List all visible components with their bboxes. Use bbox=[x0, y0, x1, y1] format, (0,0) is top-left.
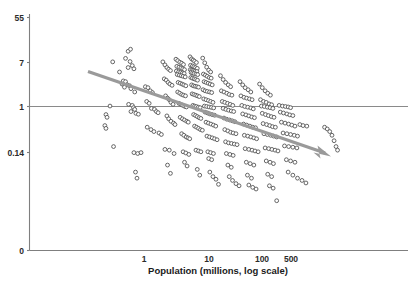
data-point bbox=[336, 148, 340, 152]
data-point bbox=[152, 130, 156, 134]
data-point bbox=[291, 114, 295, 118]
data-point bbox=[247, 183, 251, 187]
data-point bbox=[132, 67, 136, 71]
data-point bbox=[197, 85, 201, 89]
data-point bbox=[304, 181, 308, 185]
data-point bbox=[285, 132, 289, 136]
data-points-layer bbox=[103, 47, 339, 202]
data-point bbox=[275, 199, 279, 203]
data-point bbox=[184, 94, 188, 98]
data-point bbox=[208, 170, 212, 174]
x-tick-label-10: 10 bbox=[204, 254, 214, 264]
data-point bbox=[219, 74, 223, 78]
data-point bbox=[212, 106, 216, 110]
data-point bbox=[133, 107, 137, 111]
trend-arrowhead bbox=[314, 146, 332, 159]
data-point bbox=[330, 133, 334, 137]
data-point bbox=[163, 148, 167, 152]
data-point bbox=[263, 146, 267, 150]
data-point bbox=[199, 150, 203, 154]
data-point bbox=[328, 130, 332, 134]
data-point bbox=[195, 61, 199, 65]
data-point bbox=[256, 150, 260, 154]
data-point bbox=[184, 84, 188, 88]
x-tick-label-500: 500 bbox=[284, 254, 298, 264]
data-point bbox=[231, 179, 235, 183]
data-point bbox=[272, 115, 276, 119]
data-point bbox=[273, 125, 277, 129]
x-tick-label-100: 100 bbox=[255, 254, 269, 264]
data-point bbox=[289, 106, 293, 110]
data-point bbox=[133, 90, 137, 94]
data-point bbox=[210, 91, 214, 95]
data-point bbox=[211, 100, 215, 104]
data-point bbox=[305, 124, 309, 128]
data-point bbox=[249, 90, 253, 94]
data-point bbox=[111, 60, 115, 64]
data-point bbox=[214, 177, 218, 181]
data-point bbox=[271, 186, 275, 190]
data-point bbox=[209, 76, 213, 80]
data-point bbox=[159, 133, 163, 137]
scatter-chart: 55 7 1 0.14 0 1 10 100 500 Population (m… bbox=[0, 0, 414, 285]
data-point bbox=[266, 172, 270, 176]
data-point bbox=[332, 139, 336, 143]
data-point bbox=[291, 173, 295, 177]
data-point bbox=[198, 173, 202, 177]
data-point bbox=[201, 56, 205, 60]
data-point bbox=[231, 154, 235, 158]
data-point bbox=[183, 75, 187, 79]
data-point bbox=[232, 110, 236, 114]
data-point bbox=[300, 179, 304, 183]
data-point bbox=[169, 69, 173, 73]
data-point bbox=[270, 175, 274, 179]
data-point bbox=[295, 146, 299, 150]
data-point bbox=[289, 159, 293, 163]
data-point bbox=[276, 149, 280, 153]
data-point bbox=[255, 137, 259, 141]
data-point bbox=[251, 107, 255, 111]
y-tick-label-1: 1 bbox=[19, 102, 24, 112]
data-point bbox=[129, 110, 133, 114]
data-point bbox=[268, 93, 272, 97]
data-point bbox=[246, 173, 250, 177]
data-point bbox=[156, 111, 160, 115]
data-point bbox=[243, 147, 247, 151]
data-point bbox=[281, 131, 285, 135]
data-point bbox=[230, 93, 234, 97]
data-point bbox=[296, 176, 300, 180]
data-point bbox=[197, 95, 201, 99]
data-point bbox=[137, 112, 141, 116]
y-tick-label-0: 0 bbox=[19, 246, 24, 256]
data-point bbox=[284, 158, 288, 162]
data-point bbox=[108, 104, 112, 108]
data-point bbox=[210, 158, 214, 162]
data-point bbox=[172, 152, 176, 156]
data-point bbox=[252, 163, 256, 167]
data-point bbox=[188, 137, 192, 141]
x-axis-title: Population (millions, log scale) bbox=[148, 265, 288, 276]
data-point bbox=[104, 126, 108, 130]
data-point bbox=[170, 83, 174, 87]
data-point bbox=[126, 66, 130, 70]
data-point bbox=[272, 162, 276, 166]
data-point bbox=[135, 176, 139, 180]
data-point bbox=[250, 98, 254, 102]
data-point bbox=[210, 83, 214, 87]
data-point bbox=[253, 116, 257, 120]
data-point bbox=[128, 60, 132, 64]
data-point bbox=[237, 184, 241, 188]
data-point bbox=[171, 102, 175, 106]
data-point bbox=[217, 182, 221, 186]
y-tick-label-7: 7 bbox=[19, 58, 24, 68]
data-point bbox=[212, 152, 216, 156]
data-point bbox=[235, 143, 239, 147]
data-point bbox=[173, 123, 177, 127]
data-point bbox=[187, 153, 191, 157]
data-point bbox=[231, 104, 235, 108]
data-point bbox=[293, 124, 297, 128]
data-point bbox=[289, 133, 293, 137]
data-point bbox=[268, 184, 272, 188]
data-point bbox=[186, 120, 190, 124]
data-point bbox=[134, 170, 138, 174]
